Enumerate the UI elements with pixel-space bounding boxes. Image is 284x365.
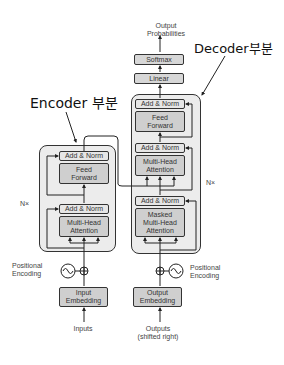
pe-left-line2: Encoding bbox=[12, 270, 42, 278]
decoder-masked-line3: Attention bbox=[146, 227, 174, 235]
output-embedding: Output Embedding bbox=[133, 287, 182, 307]
decoder-ff-line1: Feed bbox=[152, 114, 168, 122]
output-embedding-line2: Embedding bbox=[140, 297, 175, 305]
decoder-add-norm-mid-label: Add & Norm bbox=[141, 144, 179, 152]
decoder-feed-forward: Feed Forward bbox=[135, 111, 185, 132]
decoder-nx-label: N× bbox=[206, 179, 215, 187]
decoder-masked-attention: Masked Multi-Head Attention bbox=[135, 208, 185, 237]
encoder-multi-head-attention: Multi-Head Attention bbox=[59, 216, 109, 237]
encoder-mha-line1: Multi-Head bbox=[67, 219, 101, 227]
decoder-ff-line2: Forward bbox=[147, 122, 173, 130]
encoder-nx-label: N× bbox=[20, 200, 29, 208]
output-probabilities-line2: Probabilities bbox=[132, 30, 200, 38]
encoder-label: Encoder 부분 bbox=[30, 92, 118, 112]
outputs-line1: Outputs bbox=[130, 325, 186, 333]
decoder-masked-line2: Multi-Head bbox=[143, 219, 177, 227]
decoder-add-norm-mid: Add & Norm bbox=[135, 143, 185, 153]
outputs-label: Outputs (shifted right) bbox=[130, 325, 186, 341]
pe-left-line1: Positional bbox=[12, 262, 42, 270]
decoder-add-norm-bottom: Add & Norm bbox=[135, 196, 185, 206]
output-probabilities-line1: Output bbox=[132, 22, 200, 30]
softmax-label: Softmax bbox=[146, 56, 172, 64]
decoder-add-norm-top-label: Add & Norm bbox=[141, 100, 179, 108]
output-probabilities-label: Output Probabilities bbox=[132, 22, 200, 38]
input-embedding: Input Embedding bbox=[59, 287, 108, 307]
inputs-label: Inputs bbox=[68, 325, 98, 333]
encoder-add-norm-bottom-label: Add & Norm bbox=[65, 205, 103, 213]
encoder-ff-line1: Feed bbox=[76, 166, 92, 174]
linear-block: Linear bbox=[134, 73, 184, 84]
linear-label: Linear bbox=[149, 75, 168, 83]
pe-right-line1: Positional bbox=[190, 264, 220, 272]
encoder-feed-forward: Feed Forward bbox=[59, 163, 109, 184]
softmax-block: Softmax bbox=[134, 54, 184, 65]
encoder-add-norm-top: Add & Norm bbox=[59, 151, 109, 161]
decoder-add-norm-top: Add & Norm bbox=[135, 99, 185, 109]
input-embedding-line1: Input bbox=[76, 289, 92, 297]
positional-encoding-left-label: Positional Encoding bbox=[12, 262, 42, 278]
decoder-mha-line2: Attention bbox=[146, 166, 174, 174]
decoder-add-norm-bottom-label: Add & Norm bbox=[141, 197, 179, 205]
pe-right-line2: Encoding bbox=[190, 272, 220, 280]
decoder-label: Decoder부분 bbox=[194, 38, 273, 57]
encoder-ff-line2: Forward bbox=[71, 174, 97, 182]
decoder-multi-head-attention: Multi-Head Attention bbox=[135, 155, 185, 176]
encoder-mha-line2: Attention bbox=[70, 227, 98, 235]
encoder-add-norm-top-label: Add & Norm bbox=[65, 152, 103, 160]
positional-encoding-right-label: Positional Encoding bbox=[190, 264, 220, 280]
decoder-masked-line1: Masked bbox=[148, 211, 173, 219]
output-embedding-line1: Output bbox=[147, 289, 168, 297]
outputs-line2: (shifted right) bbox=[130, 333, 186, 341]
input-embedding-line2: Embedding bbox=[66, 297, 101, 305]
encoder-add-norm-bottom: Add & Norm bbox=[59, 204, 109, 214]
decoder-mha-line1: Multi-Head bbox=[143, 158, 177, 166]
